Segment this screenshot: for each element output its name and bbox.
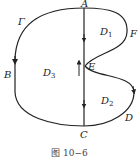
label-point-e: E [87, 61, 96, 72]
label-region-d3: D3 [42, 67, 56, 80]
label-point-f: F [129, 28, 138, 39]
label-region-d1: D1 [99, 26, 113, 39]
figure-caption: 图 10−6 [0, 146, 139, 159]
label-region-d2: D2 [100, 95, 114, 108]
label-curve-gamma: Γ [17, 16, 26, 27]
curve-upper-loop [84, 8, 127, 66]
label-point-a: A [80, 0, 88, 9]
diagram-canvas: A B C D E F Γ D1 D2 D3 [0, 0, 139, 162]
label-point-c: C [80, 129, 88, 140]
figure-10-6: A B C D E F Γ D1 D2 D3 图 10−6 [0, 0, 139, 162]
arrow-right-bulge [133, 86, 134, 92]
label-point-d: D [124, 112, 133, 123]
label-point-b: B [3, 69, 11, 80]
